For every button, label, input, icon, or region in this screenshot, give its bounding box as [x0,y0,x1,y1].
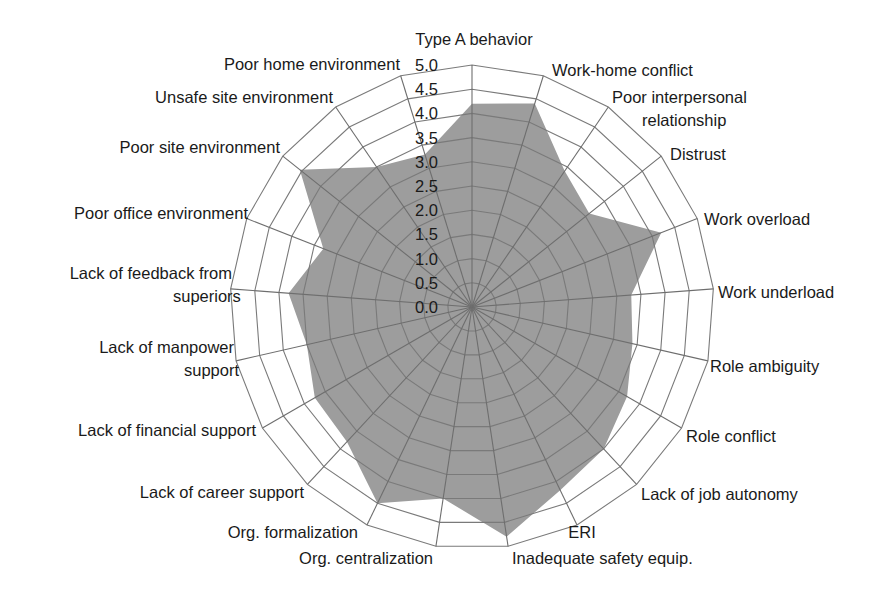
axis-label: Poor office environment [74,204,248,222]
radial-tick-label: 0.5 [415,274,438,292]
axis-label: Work underload [718,283,834,301]
axis-label: Role conflict [686,427,776,445]
axis-label: Lack of job autonomy [641,485,799,503]
radial-tick-label: 5.0 [415,56,438,74]
axis-label: relationship [642,111,726,129]
axis-label: Role ambiguity [710,357,820,375]
axis-label: Type A behavior [415,30,533,48]
radial-tick-label: 3.5 [415,129,438,147]
axis-label: Distrust [670,145,726,163]
radial-tick-label: 0.0 [415,298,438,316]
axis-label: Org. centralization [299,549,433,567]
radial-tick-label: 3.0 [415,153,438,171]
radial-tick-label: 4.0 [415,104,438,122]
radial-tick-label: 1.0 [415,250,438,268]
axis-label: Lack of financial support [78,421,256,439]
axis-label: Lack of career support [140,483,305,501]
radial-tick-label: 2.5 [415,177,438,195]
axis-label: Unsafe site environment [155,88,333,106]
radar-chart: 0.00.51.01.52.02.53.03.54.04.55.0 Type A… [0,0,884,595]
axis-label: superiors [173,287,241,305]
radial-tick-label: 1.5 [415,225,438,243]
series-area [289,104,662,537]
axis-label: Lack of feedback from [70,264,232,282]
axis-label: Work overload [704,210,810,228]
axis-label: ERI [568,523,596,541]
axis-label: Work-home conflict [552,61,693,79]
axis-label: Inadequate safety equip. [512,549,693,567]
axis-label: Poor home environment [224,55,401,73]
radar-area-layer [289,104,662,537]
axis-label: support [184,361,239,379]
axis-label: Poor site environment [120,138,281,156]
radial-tick-label: 2.0 [415,201,438,219]
axis-label: Org. formalization [228,523,358,541]
radial-tick-labels: 0.00.51.01.52.02.53.03.54.04.55.0 [415,56,438,316]
radial-tick-label: 4.5 [415,80,438,98]
axis-label: Lack of manpower [99,338,234,356]
axis-label: Poor interpersonal [612,88,747,106]
